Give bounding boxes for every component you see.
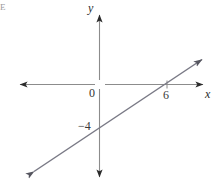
coordinate-plane-svg: [0, 0, 218, 185]
y-intercept-label: −4: [78, 120, 91, 132]
x-axis-label: x: [205, 88, 210, 100]
line-graph-figure: E y x 0 6 −4: [0, 0, 218, 185]
origin-label: 0: [89, 87, 95, 99]
plotted-line: [34, 60, 202, 172]
x-intercept-label: 6: [163, 89, 169, 101]
y-axis-label: y: [88, 2, 93, 14]
